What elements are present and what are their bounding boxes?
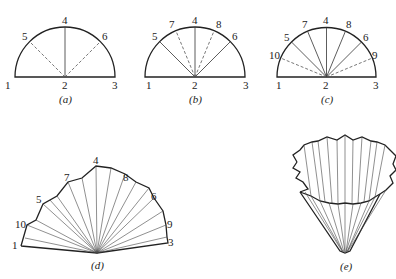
label-5: 5 <box>36 193 42 205</box>
label-10: 10 <box>15 218 27 230</box>
folded-filter-paper-figure: 1 2 3 4 5 6 (a) 1 2 3 4 5 6 7 8 (b) 1 2 <box>0 0 396 279</box>
label-5: 5 <box>22 30 28 42</box>
label-9: 9 <box>372 49 378 61</box>
radius-2-5 <box>292 42 327 77</box>
label-1: 1 <box>12 239 18 251</box>
label-6: 6 <box>151 190 157 202</box>
radius-2-5 <box>160 42 195 77</box>
caption-a: (a) <box>59 93 72 106</box>
label-1: 1 <box>146 79 152 91</box>
radius-2-6 <box>327 42 362 77</box>
label-5: 5 <box>284 31 290 43</box>
label-10: 10 <box>269 49 281 61</box>
label-4: 4 <box>323 14 329 26</box>
label-7: 7 <box>169 18 175 30</box>
panel-c: 1 2 3 4 5 6 7 8 9 10 (c) <box>269 14 379 106</box>
label-6: 6 <box>363 31 369 43</box>
cone-left-rim <box>293 162 308 192</box>
label-4: 4 <box>192 14 198 26</box>
label-6: 6 <box>102 30 108 42</box>
label-8: 8 <box>216 18 222 30</box>
dashed-radius-2-8 <box>195 31 214 77</box>
label-4: 4 <box>62 14 68 26</box>
caption-e: (e) <box>340 260 353 273</box>
label-3: 3 <box>373 79 379 91</box>
radius-2-6 <box>195 42 230 77</box>
label-1: 1 <box>5 79 11 91</box>
panel-b: 1 2 3 4 5 6 7 8 (b) <box>145 14 249 106</box>
label-7: 7 <box>64 171 70 183</box>
label-2: 2 <box>323 79 329 91</box>
label-2: 2 <box>62 79 68 91</box>
fan-pleat-lines <box>25 166 167 253</box>
label-4: 4 <box>93 154 99 166</box>
label-7: 7 <box>302 18 308 30</box>
label-5: 5 <box>152 30 158 42</box>
dashed-radius-2-6 <box>65 42 100 77</box>
label-6: 6 <box>232 30 238 42</box>
label-8: 8 <box>346 18 352 30</box>
dashed-radius-2-7 <box>176 31 195 77</box>
panel-e: (e) <box>293 135 396 273</box>
label-3: 3 <box>243 79 249 91</box>
dashed-radius-2-5 <box>30 42 65 77</box>
label-2: 2 <box>192 79 198 91</box>
figure-canvas: 1 2 3 4 5 6 (a) 1 2 3 4 5 6 7 8 (b) 1 2 <box>0 0 396 279</box>
cone-back-rim <box>293 135 396 162</box>
cone-right-rim <box>380 156 396 194</box>
caption-d: (d) <box>91 259 104 272</box>
caption-b: (b) <box>189 93 202 106</box>
panel-a: 1 2 3 4 5 6 (a) <box>5 14 118 106</box>
label-1: 1 <box>276 79 282 91</box>
label-3: 3 <box>168 236 174 248</box>
cone-pleat-lines <box>304 135 386 252</box>
label-9: 9 <box>167 218 173 230</box>
label-3: 3 <box>112 79 118 91</box>
panel-d: 1 3 4 5 6 7 8 9 10 (d) <box>12 154 174 272</box>
label-8: 8 <box>123 171 129 183</box>
caption-c: (c) <box>321 93 334 106</box>
